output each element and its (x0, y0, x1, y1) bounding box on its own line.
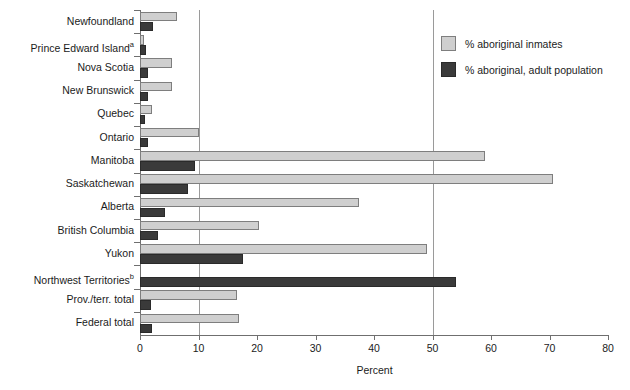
bar-inmates (140, 198, 359, 208)
y-axis-label-manitoba: Manitoba (2, 155, 134, 166)
y-axis-tick (134, 33, 140, 34)
x-axis-tick-label-60: 60 (471, 342, 511, 354)
y-axis-category-labels: NewfoundlandPrince Edward IslandaNova Sc… (0, 10, 134, 335)
x-axis-tick-label-50: 50 (413, 342, 453, 354)
y-axis-tick (134, 242, 140, 243)
x-axis-tick-label-30: 30 (296, 342, 336, 354)
y-axis-label-alberta: Alberta (2, 201, 134, 212)
bar-adult-population (140, 115, 145, 125)
bar-adult-population (140, 208, 165, 218)
y-axis-label-federal-total: Federal total (2, 317, 134, 328)
bar-inmates (140, 58, 172, 68)
y-axis-label-northwest-territories: Northwest Territoriesb (2, 271, 134, 286)
x-axis-tick-label-40: 40 (354, 342, 394, 354)
y-axis-label-yukon: Yukon (2, 248, 134, 259)
y-axis-tick (134, 289, 140, 290)
x-axis-title: Percent (140, 364, 609, 376)
x-axis-tick-60 (491, 335, 492, 340)
bar-adult-population (140, 138, 148, 148)
chart-legend: % aboriginal inmates % aboriginal, adult… (441, 36, 603, 88)
y-axis-tick (134, 80, 140, 81)
y-axis-label-newfoundland: Newfoundland (2, 16, 134, 27)
chart-figure: NewfoundlandPrince Edward IslandaNova Sc… (0, 0, 630, 390)
legend-label-adult-population: % aboriginal, adult population (465, 64, 603, 76)
x-axis-tick-0 (140, 335, 141, 340)
bar-adult-population (140, 92, 148, 102)
y-axis-label-prince-edward-island: Prince Edward Islanda (2, 39, 134, 54)
bar-adult-population (140, 45, 146, 55)
y-axis-tick (134, 56, 140, 57)
legend-swatch-dark-icon (441, 62, 456, 77)
bar-inmates (140, 35, 144, 45)
legend-entry-adult-population: % aboriginal, adult population (441, 62, 603, 77)
y-axis-tick (134, 10, 140, 11)
bar-inmates (140, 12, 177, 22)
bar-adult-population (140, 184, 188, 194)
y-axis-tick (134, 265, 140, 266)
y-axis-label-ontario: Ontario (2, 132, 134, 143)
x-axis-tick-20 (257, 335, 258, 340)
bar-adult-population (140, 277, 456, 287)
y-axis-tick (134, 126, 140, 127)
legend-entry-inmates: % aboriginal inmates (441, 36, 603, 51)
bar-inmates (140, 82, 172, 92)
bar-inmates (140, 314, 239, 324)
bar-inmates (140, 174, 553, 184)
y-axis-tick (134, 312, 140, 313)
x-axis-tick-50 (433, 335, 434, 340)
bar-inmates (140, 105, 152, 115)
bar-adult-population (140, 324, 152, 334)
y-axis-label-nova-scotia: Nova Scotia (2, 62, 134, 73)
bar-adult-population (140, 161, 195, 171)
bar-inmates (140, 244, 427, 254)
x-axis-tick-40 (374, 335, 375, 340)
legend-swatch-light-icon (441, 36, 456, 51)
x-axis-tick-label-10: 10 (179, 342, 219, 354)
y-axis-label-new-brunswick: New Brunswick (2, 85, 134, 96)
y-axis-tick (134, 149, 140, 150)
y-axis-tick (134, 196, 140, 197)
y-axis-label-prov-terr-total: Prov./terr. total (2, 294, 134, 305)
x-axis-tick-80 (608, 335, 609, 340)
bar-inmates (140, 151, 485, 161)
bar-inmates (140, 221, 259, 231)
legend-label-inmates: % aboriginal inmates (465, 38, 562, 50)
y-axis-label-saskatchewan: Saskatchewan (2, 178, 134, 189)
x-axis-tick-label-0: 0 (120, 342, 160, 354)
y-axis-tick (134, 103, 140, 104)
x-axis-tick-10 (199, 335, 200, 340)
bar-adult-population (140, 22, 153, 32)
x-axis-tick-label-20: 20 (237, 342, 277, 354)
bar-adult-population (140, 254, 243, 264)
bar-inmates (140, 128, 199, 138)
y-axis-tick (134, 219, 140, 220)
y-axis-label-quebec: Quebec (2, 108, 134, 119)
y-axis-label-british-columbia: British Columbia (2, 225, 134, 236)
bar-adult-population (140, 231, 158, 241)
x-axis-tick-label-80: 80 (588, 342, 628, 354)
bar-inmates (140, 290, 237, 300)
x-axis-tick-label-70: 70 (530, 342, 570, 354)
x-axis-tick-70 (550, 335, 551, 340)
bar-adult-population (140, 300, 151, 310)
bar-adult-population (140, 68, 148, 78)
y-axis-tick (134, 173, 140, 174)
x-axis-tick-30 (316, 335, 317, 340)
